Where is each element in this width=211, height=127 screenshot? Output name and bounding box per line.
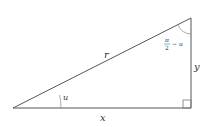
triangle: [13, 18, 191, 108]
fraction-numerator: π: [164, 36, 170, 43]
right-angle-marker: [183, 100, 191, 108]
label-height: y: [193, 61, 200, 72]
angle-suffix: − u: [172, 40, 183, 47]
label-angle-u: u: [63, 93, 68, 102]
label-hypotenuse: r: [104, 49, 110, 60]
label-base: x: [100, 112, 106, 123]
right-triangle-diagram: r x y u π 2 − u: [0, 0, 211, 127]
fraction-denominator: 2: [165, 44, 169, 51]
angle-arc-u: [60, 95, 62, 108]
label-angle-complement: π 2 − u: [164, 36, 183, 51]
angle-arc-complement: [178, 25, 191, 34]
